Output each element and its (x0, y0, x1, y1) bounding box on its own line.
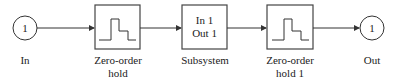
zoh1-label-line1: Zero-order (259, 54, 321, 67)
zoh1-step-icon (272, 19, 309, 40)
zero-order-hold-block[interactable] (95, 5, 140, 49)
zoh-step-icon (99, 19, 136, 40)
subsystem-inner-out: Out 1 (182, 27, 227, 40)
zoh-label-line1: Zero-order (87, 54, 149, 67)
zero-order-hold-1-block[interactable] (267, 5, 313, 49)
zoh-label-line2: hold (87, 67, 149, 80)
outport-label: Out (352, 54, 392, 67)
zoh1-label-line2: hold 1 (259, 67, 321, 80)
diagram-canvas (0, 0, 398, 82)
subsystem-inner-in: In 1 (182, 14, 227, 27)
subsystem-label: Subsystem (172, 54, 238, 67)
outport-number: 1 (360, 21, 384, 35)
inport-number: 1 (13, 21, 37, 35)
inport-label: In (5, 54, 45, 67)
